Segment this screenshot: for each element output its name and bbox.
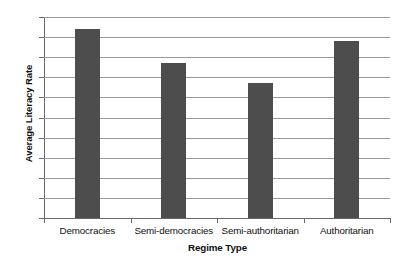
bar-semi-authoritarian	[248, 83, 273, 218]
bar-semi-democracies	[161, 63, 186, 218]
x-tick-mark-2	[217, 218, 218, 223]
y-tick-mark-10	[39, 198, 44, 199]
x-tick-mark-4	[390, 218, 391, 223]
y-tick-mark-50	[39, 118, 44, 119]
x-axis-title: Regime Type	[44, 242, 391, 253]
bar-authoritarian	[334, 41, 359, 218]
x-axis-tick-labels-group: DemocraciesSemi-democraciesSemi-authorit…	[44, 225, 391, 241]
y-tick-mark-40	[39, 138, 44, 139]
x-tick-mark-0	[44, 218, 45, 223]
plot-area: 1009080706050403020100	[44, 17, 390, 218]
y-tick-mark-100	[39, 17, 44, 18]
bar-chart-figure: Average Literacy Rate 100908070605040302…	[0, 0, 402, 268]
y-tick-mark-30	[39, 158, 44, 159]
y-tick-mark-90	[39, 37, 44, 38]
y-tick-mark-20	[39, 178, 44, 179]
x-tick-mark-3	[304, 218, 305, 223]
y-tick-mark-80	[39, 57, 44, 58]
y-tick-mark-70	[39, 77, 44, 78]
y-tick-mark-60	[39, 97, 44, 98]
x-tick-mark-1	[131, 218, 132, 223]
y-axis-title: Average Literacy Rate	[23, 39, 34, 189]
gridline-100	[44, 17, 390, 18]
x-tick-label-authoritarian: Authoritarian	[295, 225, 400, 236]
bar-democracies	[75, 29, 100, 218]
x-axis-ticks-group	[44, 218, 391, 223]
